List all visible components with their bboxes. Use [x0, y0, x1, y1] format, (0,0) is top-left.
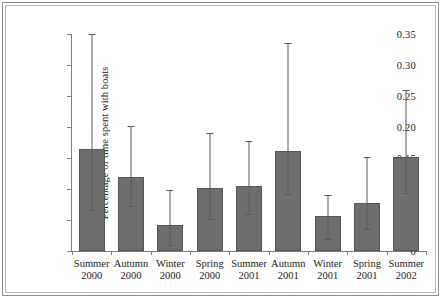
x-tick-label: Spring2000 — [190, 258, 229, 282]
error-bar-cap-upper — [363, 157, 370, 158]
error-bar-cap-lower — [324, 239, 331, 240]
x-tick-mark — [347, 251, 348, 255]
x-axis-line — [71, 251, 427, 252]
error-bar-line — [91, 34, 92, 210]
bar-group — [229, 34, 268, 251]
x-tick-mark — [111, 251, 112, 255]
error-bar-cap-lower — [245, 214, 252, 215]
error-bar-cap-lower — [167, 245, 174, 246]
error-bar-line — [130, 126, 131, 207]
x-tick-label-season: Spring — [347, 258, 386, 270]
error-bar-cap-upper — [245, 141, 252, 142]
error-bar-cap-lower — [206, 219, 213, 220]
plot-area: Percentage of time spent with boats 00.0… — [72, 34, 426, 251]
error-bar-line — [327, 195, 328, 238]
figure-inner-border: Percentage of time spent with boats 00.0… — [5, 5, 436, 293]
x-tick-label-season: Summer — [72, 258, 111, 270]
x-tick-label-season: Autumn — [111, 258, 150, 270]
x-tick-label-year: 2000 — [72, 270, 111, 282]
x-tick-mark — [72, 251, 73, 255]
x-tick-label-season: Autumn — [269, 258, 308, 270]
x-tick-label: Autumn2001 — [269, 258, 308, 282]
x-tick-label-year: 2001 — [269, 270, 308, 282]
error-bar-line — [248, 141, 249, 214]
bar-group — [347, 34, 386, 251]
error-bar-cap-upper — [403, 90, 410, 91]
error-bar-line — [209, 133, 210, 219]
bar-group — [72, 34, 111, 251]
error-bar-cap-lower — [127, 206, 134, 207]
error-bar-line — [170, 190, 171, 245]
bar-group — [269, 34, 308, 251]
error-bar-cap-upper — [167, 190, 174, 191]
x-tick-label: Summer2000 — [72, 258, 111, 282]
x-tick-label: Autumn2000 — [111, 258, 150, 282]
x-tick-label-year: 2001 — [347, 270, 386, 282]
x-tick-label-year: 2002 — [387, 270, 426, 282]
x-tick-label: Summer2002 — [387, 258, 426, 282]
error-bar-line — [406, 90, 407, 194]
x-tick-label-season: Winter — [308, 258, 347, 270]
x-tick-label-year: 2001 — [229, 270, 268, 282]
error-bar-line — [288, 43, 289, 194]
x-tick-label-year: 2000 — [111, 270, 150, 282]
bar-group — [151, 34, 190, 251]
error-bar-cap-upper — [88, 34, 95, 35]
x-tick-label: Spring2001 — [347, 258, 386, 282]
x-tick-mark — [308, 251, 309, 255]
x-tick-mark — [151, 251, 152, 255]
error-bar-cap-upper — [285, 43, 292, 44]
x-tick-label-year: 2000 — [190, 270, 229, 282]
error-bar-cap-lower — [88, 210, 95, 211]
x-tick-mark — [190, 251, 191, 255]
error-bar-line — [366, 157, 367, 229]
bar-group — [111, 34, 150, 251]
error-bar-cap-lower — [363, 229, 370, 230]
x-tick-label-season: Summer — [229, 258, 268, 270]
error-bar-cap-lower — [403, 193, 410, 194]
x-tick-label-season: Summer — [387, 258, 426, 270]
x-tick-mark — [229, 251, 230, 255]
x-tick-label-year: 2001 — [308, 270, 347, 282]
figure-bar-chart: Percentage of time spent with boats 00.0… — [0, 0, 442, 299]
bar-group — [190, 34, 229, 251]
x-tick-label-season: Winter — [151, 258, 190, 270]
x-tick-mark — [387, 251, 388, 255]
x-tick-label-year: 2000 — [151, 270, 190, 282]
x-tick-mark — [269, 251, 270, 255]
error-bar-cap-upper — [127, 126, 134, 127]
error-bar-cap-lower — [285, 194, 292, 195]
x-tick-label-season: Spring — [190, 258, 229, 270]
x-tick-mark — [426, 251, 427, 255]
bar-group — [308, 34, 347, 251]
x-tick-label: Winter2000 — [151, 258, 190, 282]
x-tick-label: Summer2001 — [229, 258, 268, 282]
error-bar-cap-upper — [324, 195, 331, 196]
bar-group — [387, 34, 426, 251]
x-tick-label: Winter2001 — [308, 258, 347, 282]
error-bar-cap-upper — [206, 133, 213, 134]
